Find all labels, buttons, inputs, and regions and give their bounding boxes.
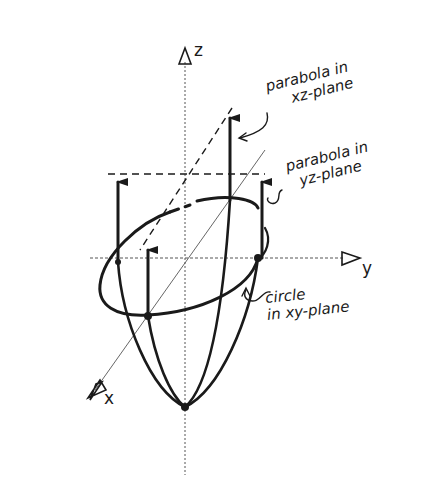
- dashed-diagonal: [140, 108, 232, 250]
- xy-circle: [100, 197, 268, 315]
- x-axis: [88, 150, 265, 400]
- diagram-canvas: z y x parabola in xz-plane parabola in y…: [0, 0, 439, 498]
- parabolas: [118, 200, 258, 407]
- z-axis-label: z: [194, 42, 203, 59]
- vertical-arrows: [118, 118, 262, 316]
- x-axis-label: x: [104, 390, 114, 407]
- y-axis-label: y: [362, 260, 372, 277]
- diagram-drawing: [0, 0, 439, 498]
